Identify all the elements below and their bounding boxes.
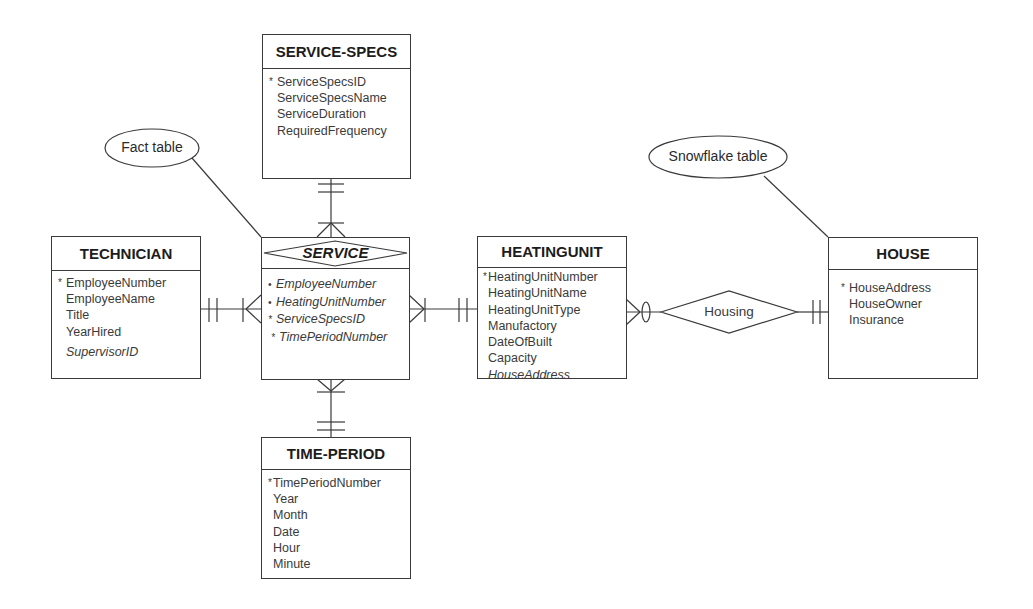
attribute-name: HouseAddress xyxy=(488,368,570,382)
attribute-name: ServiceDuration xyxy=(277,107,366,121)
attribute-row: HouseOwner xyxy=(841,296,977,312)
attribute-name: HeatingUnitNumber xyxy=(276,295,386,309)
primary-key-marker: * xyxy=(268,311,276,329)
attribute-name: TimePeriodNumber xyxy=(279,330,387,344)
attribute-name: Insurance xyxy=(849,313,904,327)
attribute-list: *EmployeeNumber EmployeeName Title YearH… xyxy=(52,271,200,360)
attribute-row: *ServiceSpecsID xyxy=(269,74,410,90)
attribute-list: •EmployeeNumber •HeatingUnitNumber *Serv… xyxy=(262,269,409,346)
primary-key-marker: • xyxy=(268,294,276,312)
attribute-name: Year xyxy=(273,492,298,506)
fact-table-label: Fact table xyxy=(121,139,182,155)
attribute-name: EmployeeNumber xyxy=(66,276,166,290)
attribute-name: Minute xyxy=(273,557,311,571)
attribute-row: *HeatingUnitNumber xyxy=(483,269,626,285)
attribute-row-foreign-key: *TimePeriodNumber xyxy=(268,329,409,347)
er-diagram-canvas: Fact table Snowflake table Housing SERVI… xyxy=(0,0,1033,609)
primary-key-marker: * xyxy=(58,275,66,291)
attribute-name: HeatingUnitType xyxy=(488,303,580,317)
attribute-row: Date xyxy=(268,524,410,540)
connector-service-heatingunit xyxy=(409,295,477,323)
fact-table-callout: Fact table xyxy=(105,139,199,155)
attribute-row: ServiceDuration xyxy=(269,106,410,122)
connector-service-timeperiod xyxy=(317,379,345,437)
entity-title: TIME-PERIOD xyxy=(262,438,410,470)
attribute-name: YearHired xyxy=(66,325,121,339)
attribute-row-foreign-key: HouseAddress xyxy=(483,367,626,383)
attribute-list: *HeatingUnitNumber HeatingUnitName Heati… xyxy=(478,268,626,383)
attribute-row: Month xyxy=(268,507,410,523)
primary-key-marker: * xyxy=(269,74,277,90)
attribute-name: Capacity xyxy=(488,351,537,365)
attribute-name: HeatingUnitName xyxy=(488,286,587,300)
attribute-list: *TimePeriodNumber Year Month Date Hour M… xyxy=(262,470,410,572)
entity-service[interactable]: SERVICE •EmployeeNumber •HeatingUnitNumb… xyxy=(261,237,410,380)
entity-service-specs[interactable]: SERVICE-SPECS *ServiceSpecsID ServiceSpe… xyxy=(262,34,411,179)
attribute-row: *EmployeeNumber xyxy=(58,275,200,291)
entity-heatingunit[interactable]: HEATINGUNIT *HeatingUnitNumber HeatingUn… xyxy=(477,236,627,379)
snowflake-table-callout: Snowflake table xyxy=(649,148,787,164)
attribute-row: Minute xyxy=(268,556,410,572)
attribute-name: EmployeeName xyxy=(66,292,155,306)
primary-key-marker: • xyxy=(268,276,276,294)
entity-house[interactable]: HOUSE *HouseAddress HouseOwner Insurance xyxy=(828,237,978,379)
attribute-row: EmployeeName xyxy=(58,291,200,307)
attribute-row: RequiredFrequency xyxy=(269,123,410,139)
attribute-list: *ServiceSpecsID ServiceSpecsName Service… xyxy=(263,69,410,139)
entity-technician[interactable]: TECHNICIAN *EmployeeNumber EmployeeName … xyxy=(51,236,201,379)
attribute-name: HouseOwner xyxy=(849,297,922,311)
attribute-name: HouseAddress xyxy=(849,281,931,295)
entity-title: TECHNICIAN xyxy=(52,237,200,271)
fact-table-leader-line xyxy=(192,158,261,237)
entity-title: SERVICE xyxy=(303,244,369,261)
attribute-row-foreign-key: •EmployeeNumber xyxy=(268,276,409,294)
connector-technician-service xyxy=(200,295,261,323)
attribute-name: RequiredFrequency xyxy=(277,124,387,138)
attribute-row: DateOfBuilt xyxy=(483,334,626,350)
entity-title: HOUSE xyxy=(829,238,977,270)
attribute-name: Manufactory xyxy=(488,319,557,333)
attribute-name: Date xyxy=(273,525,299,539)
attribute-name: EmployeeNumber xyxy=(276,277,376,291)
attribute-name: ServiceSpecsID xyxy=(277,75,366,89)
attribute-name: Hour xyxy=(273,541,300,555)
entity-time-period[interactable]: TIME-PERIOD *TimePeriodNumber Year Month… xyxy=(261,437,411,579)
entity-title-diamond: SERVICE xyxy=(262,238,409,269)
attribute-name: DateOfBuilt xyxy=(488,335,552,349)
entity-title: HEATINGUNIT xyxy=(478,237,626,268)
attribute-name: ServiceSpecsName xyxy=(277,91,387,105)
snowflake-table-leader-line xyxy=(764,176,828,237)
attribute-list: *HouseAddress HouseOwner Insurance xyxy=(829,270,977,329)
attribute-name: SupervisorID xyxy=(66,345,138,359)
snowflake-table-label: Snowflake table xyxy=(669,148,768,164)
attribute-row-foreign-key: *ServiceSpecsID xyxy=(268,311,409,329)
attribute-row: HeatingUnitName xyxy=(483,285,626,301)
attribute-row: Hour xyxy=(268,540,410,556)
attribute-row: Manufactory xyxy=(483,318,626,334)
attribute-row: Title xyxy=(58,307,200,323)
primary-key-marker: * xyxy=(841,280,849,296)
attribute-row-foreign-key: •HeatingUnitNumber xyxy=(268,294,409,312)
housing-relationship: Housing xyxy=(680,304,778,319)
attribute-row-foreign-key: SupervisorID xyxy=(58,344,200,360)
attribute-name: Title xyxy=(66,308,89,322)
attribute-row: ServiceSpecsName xyxy=(269,90,410,106)
attribute-name: Month xyxy=(273,508,308,522)
attribute-name: ServiceSpecsID xyxy=(276,312,365,326)
primary-key-marker: * xyxy=(271,329,279,347)
attribute-name: TimePeriodNumber xyxy=(273,476,381,490)
entity-title: SERVICE-SPECS xyxy=(263,35,410,69)
attribute-row: Capacity xyxy=(483,350,626,366)
attribute-row: HeatingUnitType xyxy=(483,302,626,318)
attribute-row: *HouseAddress xyxy=(841,280,977,296)
connector-servicespecs-service xyxy=(317,178,345,237)
housing-label: Housing xyxy=(704,304,754,319)
attribute-row: YearHired xyxy=(58,324,200,340)
attribute-row: Insurance xyxy=(841,312,977,328)
attribute-name: HeatingUnitNumber xyxy=(488,270,598,284)
attribute-row: Year xyxy=(268,491,410,507)
attribute-row: *TimePeriodNumber xyxy=(268,475,410,491)
